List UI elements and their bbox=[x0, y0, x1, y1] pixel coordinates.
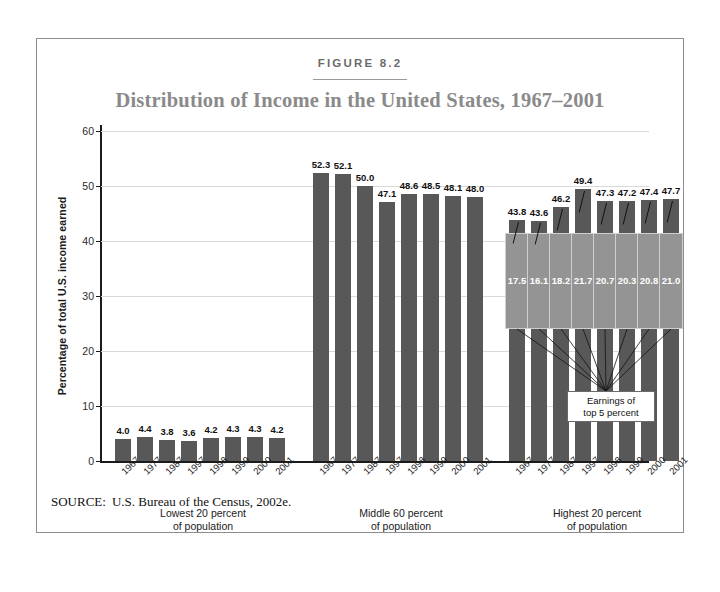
bar-value-label: 48.6 bbox=[400, 180, 419, 191]
bar bbox=[445, 196, 461, 461]
y-axis-title: Percentage of total U.S. income earned bbox=[55, 131, 69, 461]
bar bbox=[313, 173, 329, 461]
top-5-percent-overlay: 20.8 bbox=[637, 233, 661, 329]
top-5-percent-overlay: 21.7 bbox=[571, 233, 595, 329]
bar-value-label: 50.0 bbox=[356, 172, 375, 183]
bar-slot: 48.1 bbox=[445, 131, 461, 461]
bar-group: 52.352.150.047.148.648.548.148.0 bbox=[313, 131, 489, 461]
group-caption-line-1: Highest 20 percent bbox=[479, 507, 715, 520]
top-5-percent-value-label: 20.8 bbox=[638, 275, 660, 286]
bar-slot: 4.2 bbox=[269, 131, 285, 461]
bar bbox=[467, 197, 483, 461]
bar bbox=[137, 437, 153, 461]
bar bbox=[401, 194, 417, 461]
top-5-percent-value-label: 21.7 bbox=[572, 275, 594, 286]
bar-value-label: 52.1 bbox=[334, 160, 353, 171]
figure-divider-rule bbox=[313, 79, 407, 80]
top-5-percent-value-label: 18.2 bbox=[550, 275, 572, 286]
bar-slot: 48.0 bbox=[467, 131, 483, 461]
bar-value-label: 4.2 bbox=[270, 424, 283, 435]
group-caption-line-2: of population bbox=[479, 520, 715, 533]
bar-value-label: 3.6 bbox=[182, 427, 195, 438]
bar-value-label: 47.4 bbox=[640, 186, 659, 197]
figure-number-label: FIGURE 8.2 bbox=[37, 57, 683, 69]
y-axis-tick-mark bbox=[96, 461, 101, 462]
y-axis-tick-label: 60 bbox=[82, 125, 94, 137]
bar-value-label: 49.4 bbox=[574, 175, 593, 186]
bar-value-label: 48.1 bbox=[444, 182, 463, 193]
source-note: SOURCE:U.S. Bureau of the Census, 2002e. bbox=[51, 494, 291, 510]
annotation-top-5-percent: Earnings of top 5 percent bbox=[567, 391, 655, 422]
top-5-percent-value-label: 20.7 bbox=[594, 275, 616, 286]
y-axis-tick-label: 30 bbox=[82, 290, 94, 302]
y-axis-tick-mark bbox=[96, 186, 101, 187]
top-5-percent-value-label: 20.3 bbox=[616, 275, 638, 286]
bar-group: 4.04.43.83.64.24.34.34.2 bbox=[115, 131, 291, 461]
bar-slot: 4.3 bbox=[225, 131, 241, 461]
bar-value-label: 47.2 bbox=[618, 187, 637, 198]
bar-slot: 3.6 bbox=[181, 131, 197, 461]
y-axis-tick-mark bbox=[96, 406, 101, 407]
bar-slot: 4.0 bbox=[115, 131, 131, 461]
source-label: SOURCE: bbox=[51, 494, 106, 509]
y-axis-tick-mark bbox=[96, 131, 101, 132]
y-axis-line bbox=[100, 125, 102, 461]
y-axis-tick-label: 0 bbox=[88, 455, 94, 467]
y-axis-tick-mark bbox=[96, 241, 101, 242]
top-5-percent-overlay: 20.7 bbox=[593, 233, 617, 329]
bar-value-label: 47.3 bbox=[596, 187, 615, 198]
top-5-percent-overlay: 21.0 bbox=[659, 233, 683, 329]
bar-value-label: 43.8 bbox=[508, 206, 527, 217]
bar-slot: 50.0 bbox=[357, 131, 373, 461]
bar-slot: 48.5 bbox=[423, 131, 439, 461]
bar-value-label: 4.2 bbox=[204, 424, 217, 435]
bar-value-label: 47.1 bbox=[378, 188, 397, 199]
bar-value-label: 4.3 bbox=[248, 423, 261, 434]
bar-value-label: 52.3 bbox=[312, 159, 331, 170]
bar-slot: 52.3 bbox=[313, 131, 329, 461]
figure-frame: FIGURE 8.2 Distribution of Income in the… bbox=[36, 38, 684, 533]
annotation-line-2: top 5 percent bbox=[572, 407, 650, 419]
bar-value-label: 3.8 bbox=[160, 426, 173, 437]
bar-value-label: 48.5 bbox=[422, 180, 441, 191]
bar-slot: 4.4 bbox=[137, 131, 153, 461]
y-axis-title-text: Percentage of total U.S. income earned bbox=[56, 197, 68, 396]
bar bbox=[379, 202, 395, 461]
bar-slot: 43.817.5 bbox=[509, 131, 525, 461]
y-axis-tick-label: 50 bbox=[82, 180, 94, 192]
top-5-percent-overlay: 20.3 bbox=[615, 233, 639, 329]
y-axis-tick-label: 10 bbox=[82, 400, 94, 412]
bar-value-label: 48.0 bbox=[466, 183, 485, 194]
top-5-percent-overlay: 18.2 bbox=[549, 233, 573, 329]
bar bbox=[335, 174, 351, 461]
bar-slot: 4.2 bbox=[203, 131, 219, 461]
bar-value-label: 4.0 bbox=[116, 425, 129, 436]
top-5-percent-overlay: 17.5 bbox=[505, 233, 529, 329]
bar-slot: 3.8 bbox=[159, 131, 175, 461]
bar bbox=[423, 194, 439, 461]
bar-slot: 48.6 bbox=[401, 131, 417, 461]
group-caption: Highest 20 percentof population bbox=[479, 507, 715, 533]
bar-value-label: 43.6 bbox=[530, 207, 549, 218]
bar-slot: 47.1 bbox=[379, 131, 395, 461]
bar-value-label: 46.2 bbox=[552, 193, 571, 204]
bar-slot: 52.1 bbox=[335, 131, 351, 461]
y-axis-tick-label: 20 bbox=[82, 345, 94, 357]
bar-value-label: 4.4 bbox=[138, 423, 151, 434]
bar-value-label: 4.3 bbox=[226, 423, 239, 434]
bar-slot: 43.616.1 bbox=[531, 131, 547, 461]
bar-slot: 47.721.0 bbox=[663, 131, 679, 461]
bar-value-label: 47.7 bbox=[662, 185, 681, 196]
source-text: U.S. Bureau of the Census, 2002e. bbox=[112, 494, 291, 509]
top-5-percent-overlay: 16.1 bbox=[527, 233, 551, 329]
y-axis-tick-mark bbox=[96, 296, 101, 297]
top-5-percent-value-label: 21.0 bbox=[660, 275, 682, 286]
bar bbox=[357, 186, 373, 461]
y-axis-tick-label: 40 bbox=[82, 235, 94, 247]
figure-title: Distribution of Income in the United Sta… bbox=[37, 89, 683, 112]
top-5-percent-value-label: 16.1 bbox=[528, 275, 550, 286]
y-axis-tick-mark bbox=[96, 351, 101, 352]
annotation-line-1: Earnings of bbox=[572, 395, 650, 407]
top-5-percent-value-label: 17.5 bbox=[506, 275, 528, 286]
bar-slot: 4.3 bbox=[247, 131, 263, 461]
